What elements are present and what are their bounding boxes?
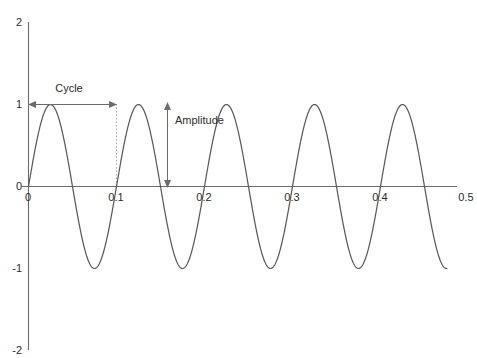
x-tick-label-0: 0	[25, 191, 31, 203]
x-tick-label-0-4: 0.4	[372, 191, 387, 203]
y-tick-labels: 2 1 0 -1 -2	[12, 16, 22, 356]
cycle-label: Cycle	[55, 82, 83, 94]
amplitude-annotation: Amplitude	[164, 102, 224, 188]
amplitude-label: Amplitude	[175, 114, 224, 126]
y-tick-label-neg2: -2	[12, 344, 22, 356]
y-tick-label-0: 0	[16, 180, 22, 192]
cycle-arrowhead-left	[28, 101, 36, 108]
y-tick-label-2: 2	[16, 16, 22, 28]
plot-canvas: Cycle Amplitude 2 1 0 -1 -2 0 0.1 0.2 0.…	[0, 0, 477, 358]
cycle-annotation: Cycle	[28, 82, 117, 108]
y-tick-label-1: 1	[16, 98, 22, 110]
x-tick-label-0-3: 0.3	[284, 191, 299, 203]
x-tick-label-0-2: 0.2	[196, 191, 211, 203]
y-tick-label-neg1: -1	[12, 262, 22, 274]
sine-wave-figure: Cycle Amplitude 2 1 0 -1 -2 0 0.1 0.2 0.…	[0, 0, 477, 358]
cycle-arrowhead-right	[109, 101, 117, 108]
amplitude-arrowhead-top	[164, 102, 171, 110]
x-tick-label-0-5: 0.5	[458, 191, 473, 203]
x-tick-label-0-1: 0.1	[108, 191, 123, 203]
